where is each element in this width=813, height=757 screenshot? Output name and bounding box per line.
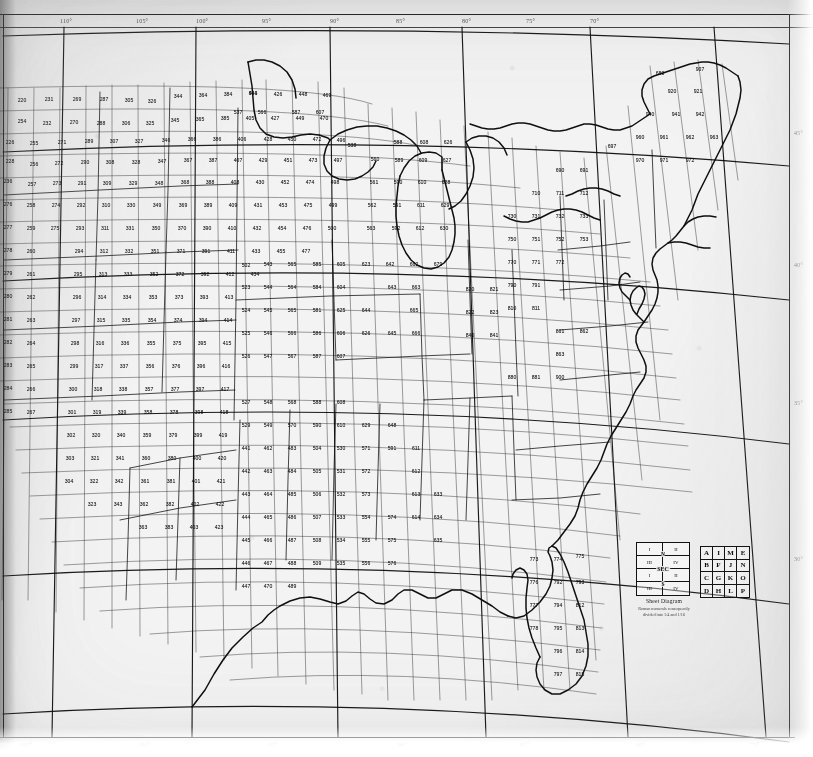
sheet-number-cell: 529 [242, 423, 251, 428]
sheet-number-cell: 608 [337, 400, 346, 405]
sheet-number-cell: 354 [148, 318, 157, 323]
sheet-number-cell: 275 [51, 226, 60, 231]
sheet-number-cell: 376 [172, 364, 181, 369]
sheet-number-cell: 228 [6, 159, 15, 164]
sheet-number-cell: 607 [337, 354, 346, 359]
sheet-number-cell: 285 [4, 409, 13, 414]
sheet-number-cell: 612 [416, 226, 425, 231]
map-sheet: 110°105°100°95°90°85°80°75°70° 105°100°9… [0, 0, 813, 757]
sheet-number-cell: 547 [264, 354, 273, 359]
sheet-number-cell: 351 [151, 249, 160, 254]
sheet-number-cell: 630 [440, 226, 449, 231]
sheet-number-cell: 576 [388, 561, 397, 566]
sheet-number-cell: 972 [686, 158, 695, 163]
sheet-number-cell: 840 [466, 333, 475, 338]
sheet-number-cell: 584 [313, 285, 322, 290]
sheet-number-cell: 961 [660, 135, 669, 140]
sheet-number-cell: 359 [143, 433, 152, 438]
sheet-number-cell: 450 [288, 137, 297, 142]
sheet-number-cell: 560 [371, 157, 380, 162]
sheet-number-cell: 776 [530, 580, 539, 585]
sheet-number-cell: 712 [580, 191, 589, 196]
sheet-number-cell: 562 [368, 203, 377, 208]
sheet-number-cell: 942 [696, 112, 705, 117]
sheet-number-cell: 526 [242, 354, 251, 359]
sheet-number-cell: 451 [284, 158, 293, 163]
sheet-number-cell: 795 [554, 626, 563, 631]
sheet-number-cell: 455 [277, 249, 286, 254]
sheet-number-cell: 730 [508, 214, 517, 219]
sheet-number-cell: 548 [264, 400, 273, 405]
sheet-number-cell: 432 [253, 226, 262, 231]
sheet-number-cell: 523 [242, 285, 251, 290]
sheet-number-cell: 395 [198, 341, 207, 346]
sheet-number-cell: 380 [168, 456, 177, 461]
sheet-number-cell: 462 [264, 446, 273, 451]
sheet-number-cell: 862 [580, 329, 589, 334]
sheet-number-cell: 474 [306, 180, 315, 185]
letter-key-cell: N [737, 560, 749, 573]
sheet-number-cell: 861 [556, 329, 565, 334]
sheet-number-cell: 822 [466, 310, 475, 315]
sheet-number-cell: 417 [221, 387, 230, 392]
sheet-number-cell: 790 [508, 283, 517, 288]
sheet-number-cell: 369 [179, 203, 188, 208]
sheet-number-cell: 415 [223, 341, 232, 346]
sheet-number-cell: 812 [576, 603, 585, 608]
sheet-number-cell: 292 [77, 203, 86, 208]
sheet-number-cell: 336 [121, 341, 130, 346]
sheet-number-cell: 538 [348, 143, 357, 148]
sheet-number-cell: 422 [216, 502, 225, 507]
sheet-number-cell: 606 [337, 331, 346, 336]
sheet-number-cell: 534 [337, 538, 346, 543]
sheet-number-cell: 283 [4, 363, 13, 368]
sheet-number-cell: 341 [116, 456, 125, 461]
sheet-number-cell: 960 [636, 135, 645, 140]
sheet-number-cell: 307 [110, 139, 119, 144]
sheet-number-cell: 604 [337, 285, 346, 290]
letter-key-cell: O [737, 572, 749, 585]
sheet-number-cell: 327 [135, 139, 144, 144]
sheet-number-cell: 363 [139, 525, 148, 530]
sheet-number-cell: 296 [73, 295, 82, 300]
sheet-number-cell: 627 [443, 158, 452, 163]
sheet-number-cell: 314 [98, 295, 107, 300]
letter-key-cell: A [701, 547, 713, 560]
sheet-number-cell: 549 [264, 423, 273, 428]
sheet-number-cell: 525 [242, 331, 251, 336]
letter-key-cell: M [725, 547, 737, 560]
sheet-number-cell: 446 [242, 561, 251, 566]
sheet-number-cell: 310 [102, 203, 111, 208]
sheet-number-cell: 608 [420, 140, 429, 145]
sheet-number-cell: 394 [199, 318, 208, 323]
sheet-number-cell: 366 [188, 137, 197, 142]
sheet-number-cell: 265 [27, 364, 36, 369]
sheet-number-cell: 299 [70, 364, 79, 369]
sheet-number-cell: 500 [328, 226, 337, 231]
sheet-number-cell: 254 [18, 119, 27, 124]
sheet-number-cell: 412 [226, 272, 235, 277]
sheet-number-cell: 591 [388, 446, 397, 451]
sheet-number-cell: 796 [554, 649, 563, 654]
sheet-number-cell: 342 [115, 479, 124, 484]
sheet-number-cell: 565 [288, 262, 297, 267]
sheet-number-cell: 907 [696, 67, 705, 72]
sheet-number-cell: 263 [27, 318, 36, 323]
sheet-number-cell: 426 [274, 92, 283, 97]
sheet-number-cell: 533 [337, 515, 346, 520]
sheet-number-cell: 318 [94, 387, 103, 392]
sheet-diagram-cell: II [663, 543, 689, 556]
sheet-number-cell: 277 [4, 225, 13, 230]
sheet-number-cell: 791 [532, 283, 541, 288]
sheet-number-cell: 628 [442, 180, 451, 185]
sheet-number-cell: 477 [302, 249, 311, 254]
sheet-number-cell: 411 [227, 249, 235, 254]
sheet-number-cell: 323 [88, 502, 97, 507]
sheet-number-cell: 358 [144, 410, 153, 415]
sheet-number-cell: 591 [393, 203, 402, 208]
sheet-number-cell: 430 [256, 180, 265, 185]
sheet-number-cell: 863 [556, 352, 565, 357]
sheet-number-cell: 385 [221, 116, 230, 121]
sheet-number-cell: 312 [100, 249, 109, 254]
sheet-number-cell: 823 [490, 310, 499, 315]
